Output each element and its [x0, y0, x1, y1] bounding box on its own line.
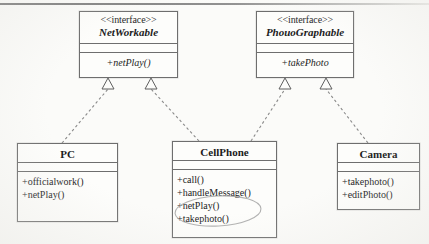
class-operations-compartment-pc: +officialwork() +netPlay(): [18, 172, 117, 203]
class-operations-compartment-camera: +takephoto() +editPhoto(): [338, 172, 419, 203]
uml-class-diagram-canvas: <<interface>> NetWorkable +netPlay() <<i…: [0, 0, 429, 244]
realization-line-camera: [326, 89, 368, 143]
realization-pc-to-networkable: [62, 78, 114, 143]
operation-netplay-pc: +netPlay(): [22, 188, 117, 201]
operation-netplay-networkable: +netPlay(): [80, 56, 177, 69]
interface-header-networkable: <<interface>> NetWorkable: [80, 12, 177, 44]
interface-box-phouographable[interactable]: <<interface>> PhouoGraphable +takePhoto: [256, 11, 354, 78]
operation-takephoto-phouographable: +takePhoto: [257, 56, 353, 69]
operation-call-cellphone: +call(): [177, 173, 276, 186]
class-box-pc[interactable]: PC +officialwork() +netPlay(): [17, 143, 118, 222]
class-name-camera: Camera: [340, 147, 417, 161]
realization-line-cellphone-networkable: [151, 89, 199, 141]
class-name-cellphone: CellPhone: [175, 145, 274, 159]
interface-attributes-compartment-networkable: [80, 44, 177, 53]
realization-cellphone-to-phouographable: [251, 78, 291, 141]
class-attributes-compartment-cellphone: [173, 161, 276, 170]
class-box-camera[interactable]: Camera +takephoto() +editPhoto(): [337, 143, 420, 210]
realization-cellphone-to-networkable: [145, 78, 199, 141]
hollow-triangle-arrowhead-cellphone-phouographable: [279, 78, 291, 89]
interface-name-networkable: NetWorkable: [82, 26, 175, 39]
hollow-triangle-arrowhead-cellphone-networkable: [145, 78, 157, 89]
realization-camera-to-phouographable: [320, 78, 368, 143]
operation-editphoto-camera: +editPhoto(): [342, 188, 419, 201]
scan-edge-artifact: [0, 3, 429, 5]
class-header-camera: Camera: [338, 144, 419, 163]
stereotype-label-networkable: <<interface>>: [82, 14, 175, 26]
operation-officialwork-pc: +officialwork(): [22, 175, 117, 188]
class-box-cellphone[interactable]: CellPhone +call() +handleMessage() +netP…: [172, 141, 277, 238]
class-header-pc: PC: [18, 144, 117, 163]
operation-netplay-cellphone: +netPlay(): [177, 199, 276, 212]
class-operations-compartment-cellphone: +call() +handleMessage() +netPlay() +tak…: [173, 170, 276, 227]
class-attributes-compartment-camera: [338, 163, 419, 172]
interface-header-phouographable: <<interface>> PhouoGraphable: [257, 12, 353, 44]
interface-box-networkable[interactable]: <<interface>> NetWorkable +netPlay(): [79, 11, 178, 78]
class-header-cellphone: CellPhone: [173, 142, 276, 161]
operation-takephoto-camera: +takephoto(): [342, 175, 419, 188]
operation-takephoto-cellphone: +takephoto(): [177, 212, 276, 225]
interface-operations-compartment-networkable: +netPlay(): [80, 53, 177, 71]
operation-handlemessage-cellphone: +handleMessage(): [177, 186, 276, 199]
class-name-pc: PC: [20, 147, 115, 161]
interface-name-phouographable: PhouoGraphable: [259, 26, 351, 39]
interface-attributes-compartment-phouographable: [257, 44, 353, 53]
hollow-triangle-arrowhead-pc: [102, 78, 114, 89]
realization-line-pc: [62, 89, 108, 143]
stereotype-label-phouographable: <<interface>>: [259, 14, 351, 26]
interface-operations-compartment-phouographable: +takePhoto: [257, 53, 353, 71]
realization-line-cellphone-phouographable: [251, 89, 285, 141]
class-attributes-compartment-pc: [18, 163, 117, 172]
hollow-triangle-arrowhead-camera: [320, 78, 332, 89]
